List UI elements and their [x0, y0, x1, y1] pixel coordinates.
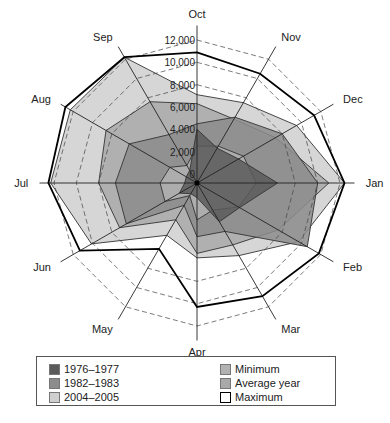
axis-label-aug: Aug — [31, 93, 51, 105]
legend-item: 1982–1983 — [49, 376, 119, 390]
series-layer — [51, 57, 345, 258]
legend-swatch — [49, 378, 60, 389]
axis-lines — [40, 26, 355, 341]
axis-label-mar: Mar — [281, 323, 300, 335]
legend-swatch — [49, 392, 60, 403]
axis-label-feb: Feb — [343, 261, 362, 273]
tick-label: 4,000 — [170, 124, 195, 135]
tick-label: 8,000 — [170, 80, 195, 91]
tick-label: 6,000 — [170, 102, 195, 113]
legend-item: Minimum — [220, 362, 280, 376]
legend-label: 1982–1983 — [64, 377, 119, 389]
axis-label-nov: Nov — [281, 31, 301, 43]
axis-label-jun: Jun — [33, 261, 51, 273]
legend-label: 1976–1977 — [64, 363, 119, 375]
legend-item: Average year — [220, 376, 300, 390]
legend-swatch — [49, 364, 60, 375]
legend-swatch — [220, 392, 231, 403]
legend-swatch — [220, 364, 231, 375]
axis-label-may: May — [92, 323, 113, 335]
legend-item: 2004–2005 — [49, 390, 119, 404]
axis-label-apr: Apr — [188, 346, 205, 356]
legend-label: Maximum — [235, 391, 283, 403]
tick-label: 12,000 — [164, 35, 195, 46]
legend-label: Minimum — [235, 363, 280, 375]
axis-label-jul: Jul — [14, 177, 28, 189]
tick-label: 2,000 — [170, 147, 195, 158]
tick-label: 10,000 — [164, 57, 195, 68]
radar-chart: OctNovDecJanFebMarAprMayJunJulAugSep 02,… — [0, 0, 390, 356]
center-dot — [195, 181, 200, 186]
legend-label: Average year — [235, 377, 300, 389]
axis-label-dec: Dec — [343, 93, 363, 105]
axis-label-jan: Jan — [366, 177, 384, 189]
axis-label-sep: Sep — [93, 31, 113, 43]
legend-item: Maximum — [220, 390, 283, 404]
legend-item: 1976–1977 — [49, 362, 119, 376]
legend-swatch — [220, 378, 231, 389]
legend: 1976–1977 1982–1983 2004–2005 Minimum Av… — [36, 356, 336, 406]
legend-label: 2004–2005 — [64, 391, 119, 403]
axis-label-oct: Oct — [188, 8, 205, 20]
tick-label: 0 — [189, 169, 195, 180]
